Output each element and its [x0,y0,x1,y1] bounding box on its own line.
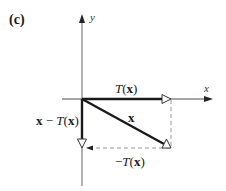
x-axis-label: x [203,82,209,94]
x-minus-t-arrow-icon [78,139,87,148]
y-axis-arrow-icon [79,14,85,23]
neg-t-label: −T(x) [115,154,145,169]
panel-label: (c) [9,12,25,28]
t-x-label: T(x) [115,81,137,96]
neg-t-arrow-icon [86,146,93,151]
x-axis-arrow-icon [204,96,213,102]
y-axis-label: y [89,11,95,23]
diagram-canvas: (c) y x T(x) x x − T(x) −T(x) [0,0,226,191]
x-minus-t-label: x − T(x) [36,113,79,128]
t-x-arrow-icon [162,95,171,104]
x-label: x [128,110,135,125]
x-vector [82,99,164,144]
